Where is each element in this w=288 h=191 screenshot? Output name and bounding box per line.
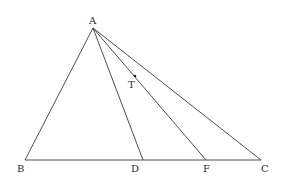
segment-AF	[93, 28, 206, 160]
point-T-marker	[134, 75, 137, 78]
label-C: C	[261, 163, 269, 174]
label-A: A	[88, 15, 97, 26]
label-F: F	[203, 163, 210, 174]
label-B: B	[17, 163, 24, 174]
label-T: T	[128, 79, 135, 90]
segment-AB	[25, 28, 93, 160]
triangle-diagram: ABDFCT	[0, 0, 288, 191]
label-D: D	[131, 163, 139, 174]
